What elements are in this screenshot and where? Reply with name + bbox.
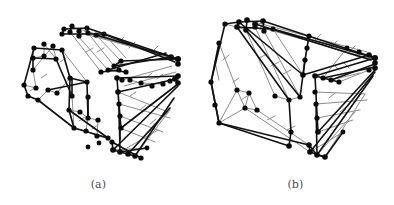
figure-panel-a: (a)	[0, 0, 197, 205]
panel-b-caption: (b)	[197, 178, 394, 191]
panel-a-caption: (a)	[0, 178, 197, 191]
panel-a-diagram	[0, 0, 197, 178]
panel-b-diagram	[197, 0, 394, 178]
figure-panel-b: (b)	[197, 0, 394, 205]
figure-root: (a)	[0, 0, 394, 205]
